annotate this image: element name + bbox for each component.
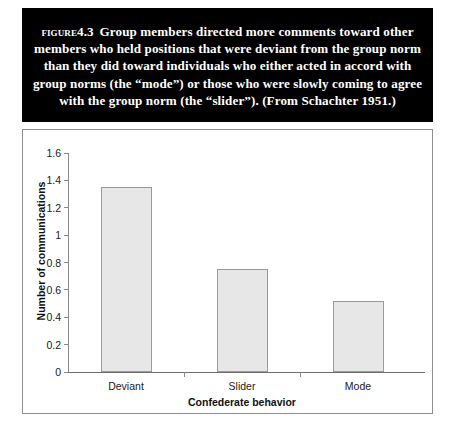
figure-number: 4.3 [77,24,94,39]
y-axis-tick-mark [64,207,68,208]
y-axis-tick-label: 0.4 [46,311,61,323]
chart-frame: Number of communications 00.20.40.60.811… [22,129,433,414]
y-axis-tick-label: 0.2 [46,339,61,351]
y-axis-tick-mark [64,153,68,154]
y-axis-tick-label: 0.6 [46,284,61,296]
y-axis-tick: 0 [55,366,68,378]
y-axis-tick-mark [64,180,68,181]
figure-container: Figure4.3Group members directed more com… [0,0,455,428]
y-axis-tick: 1.6 [46,147,68,159]
y-axis-tick-label: 0.8 [46,257,61,269]
y-axis-tick-mark [64,289,68,290]
y-axis-tick-label: 1.2 [46,202,61,214]
x-axis-category-label: Slider [229,380,256,392]
x-axis-tick-mark [184,372,185,377]
figure-label: Figure [41,24,77,39]
y-axis-tick: 1.2 [46,202,68,214]
x-axis-label: Confederate behavior [68,396,416,408]
plot-area: 00.20.40.60.811.21.41.6 [68,153,416,372]
y-axis-tick: 0.4 [46,311,68,323]
y-axis-tick-label: 1 [55,229,61,241]
y-axis-tick: 1 [55,229,68,241]
y-axis-tick: 0.6 [46,284,68,296]
x-axis-line [68,372,425,373]
y-axis-tick-label: 1.4 [46,174,61,186]
y-axis-tick-mark [64,262,68,263]
x-axis-category-label: Mode [345,380,371,392]
y-axis-tick-mark [64,372,68,373]
figure-caption-band: Figure4.3Group members directed more com… [22,8,433,122]
x-axis-tick-mark [300,372,301,377]
y-axis-label: Number of communications [35,171,47,331]
y-axis-tick: 0.8 [46,257,68,269]
y-axis-tick: 0.2 [46,339,68,351]
y-axis-tick-mark [64,235,68,236]
x-axis-category-label: Deviant [108,380,144,392]
figure-caption-text: Figure4.3Group members directed more com… [32,23,423,108]
bar-chart: Number of communications 00.20.40.60.811… [23,130,434,415]
y-axis-tick-mark [64,317,68,318]
bar [217,269,268,372]
y-axis-tick: 1.4 [46,174,68,186]
bar [333,301,384,372]
y-axis-tick-label: 1.6 [46,147,61,159]
y-axis-tick-mark [64,344,68,345]
bar [101,187,152,372]
y-axis-tick-label: 0 [55,366,61,378]
